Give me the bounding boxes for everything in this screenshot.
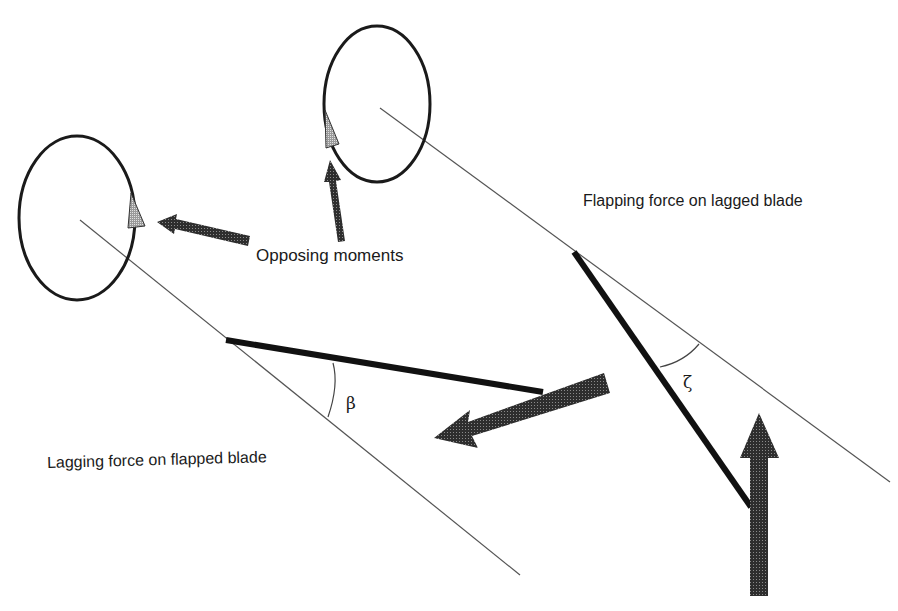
moment-arrowhead-top-icon: [325, 110, 339, 148]
moment-arrowhead-left-icon: [128, 193, 145, 228]
reference-line-flapped: [80, 220, 520, 575]
lagging-force-arrow-icon: [434, 373, 610, 448]
moment-ellipse-top: [324, 26, 430, 182]
beta-angle-arc: [328, 363, 335, 417]
moment-ellipse-left: [19, 136, 135, 300]
pointer-arrow-left-icon: [157, 214, 250, 246]
pointer-arrow-up-icon: [324, 160, 345, 242]
zeta-symbol: ζ: [683, 372, 692, 392]
zeta-angle-arc: [660, 344, 699, 367]
diagram-canvas: [0, 0, 898, 611]
opposing-moments-label: Opposing moments: [256, 246, 403, 266]
blade-flapped: [226, 340, 543, 392]
flapping-force-label: Flapping force on lagged blade: [583, 192, 803, 210]
beta-symbol: β: [346, 393, 356, 413]
